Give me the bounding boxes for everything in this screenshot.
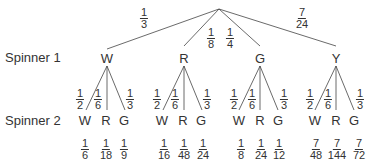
node-g: G	[255, 51, 265, 66]
result: 16	[81, 138, 89, 161]
result: 18	[237, 138, 245, 161]
result: 748	[310, 138, 322, 161]
node-r: R	[179, 51, 188, 66]
leaf: G	[349, 113, 359, 128]
prob-y: 724	[296, 7, 308, 30]
leaf: R	[101, 113, 110, 128]
branch-prob: 16	[248, 88, 256, 111]
result: 148	[178, 138, 190, 161]
branch-prob: 12	[153, 88, 161, 111]
leaf: G	[273, 113, 283, 128]
leaf: W	[79, 113, 91, 128]
branch-prob: 13	[356, 88, 364, 111]
branch-prob: 12	[76, 88, 84, 111]
result: 118	[100, 138, 112, 161]
branch-prob: 16	[94, 88, 102, 111]
branch-prob: 16	[324, 88, 332, 111]
spinner2-label: Spinner 2	[5, 113, 61, 128]
branch-prob: 12	[230, 88, 238, 111]
result: 124	[197, 138, 209, 161]
result: 112	[273, 138, 285, 161]
branch-prob: 13	[203, 88, 211, 111]
leaf: G	[119, 113, 129, 128]
leaf: R	[178, 113, 187, 128]
result: 7144	[328, 138, 346, 161]
prob-g: 14	[226, 27, 234, 50]
branch-prob: 16	[171, 88, 179, 111]
branch-prob: 13	[126, 88, 134, 111]
node-y: Y	[332, 51, 341, 66]
leaf: R	[255, 113, 264, 128]
branch-prob: 13	[280, 88, 288, 111]
node-w: W	[101, 51, 113, 66]
result: 124	[255, 138, 267, 161]
result: 19	[120, 138, 128, 161]
result: 116	[158, 138, 170, 161]
leaf: R	[331, 113, 340, 128]
leaf: W	[233, 113, 245, 128]
result: 772	[353, 138, 365, 161]
leaf: W	[156, 113, 168, 128]
prob-w: 13	[140, 7, 148, 30]
leaf: W	[309, 113, 321, 128]
spinner1-label: Spinner 1	[5, 50, 61, 65]
branch-prob: 12	[306, 88, 314, 111]
leaf: G	[196, 113, 206, 128]
prob-r: 18	[207, 27, 215, 50]
